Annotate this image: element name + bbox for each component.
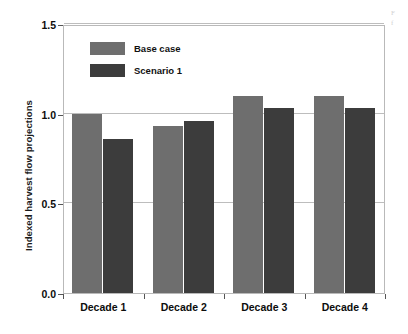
bar: [72, 114, 102, 293]
plot-area: Base caseScenario 1: [63, 25, 385, 294]
legend-item: Base case: [90, 42, 182, 55]
margin-artifact-line-1: F: [391, 8, 407, 18]
x-tick-label-2: Decade 3: [224, 301, 304, 313]
legend-label: Base case: [134, 43, 180, 54]
y-axis-labels: 0.00.51.01.5: [0, 0, 56, 334]
bar: [184, 121, 214, 293]
x-tick-label-1: Decade 2: [144, 301, 224, 313]
y-tick-label-0: 0.0: [10, 288, 56, 300]
bar-group: [225, 26, 306, 293]
bar-group: [306, 26, 387, 293]
y-tick-label-1: 0.5: [10, 198, 56, 210]
x-tick-label-0: Decade 1: [63, 301, 143, 313]
x-tick-mark-0: [63, 294, 64, 299]
legend-swatch: [90, 42, 125, 55]
bar: [314, 96, 344, 293]
margin-artifact-line-2: f: [391, 18, 407, 28]
legend-item: Scenario 1: [90, 64, 182, 77]
bar: [153, 126, 183, 293]
page-margin-artifact: F f: [391, 8, 407, 28]
bar: [264, 108, 294, 293]
legend-swatch: [90, 64, 125, 77]
y-tick-label-3: 1.5: [10, 19, 56, 31]
x-tick-label-3: Decade 4: [305, 301, 385, 313]
bar: [345, 108, 375, 293]
legend-label: Scenario 1: [134, 65, 182, 76]
x-tick-mark-4: [385, 294, 386, 299]
bar-chart-figure: Indexed harvest flow projections 0.00.51…: [0, 0, 408, 334]
y-tick-label-2: 1.0: [10, 109, 56, 121]
x-tick-mark-1: [144, 294, 145, 299]
x-tick-mark-3: [305, 294, 306, 299]
bar: [103, 139, 133, 293]
chart-legend: Base caseScenario 1: [90, 42, 182, 86]
bar: [233, 96, 263, 293]
x-tick-mark-2: [224, 294, 225, 299]
gridline-1.5: [64, 23, 384, 24]
